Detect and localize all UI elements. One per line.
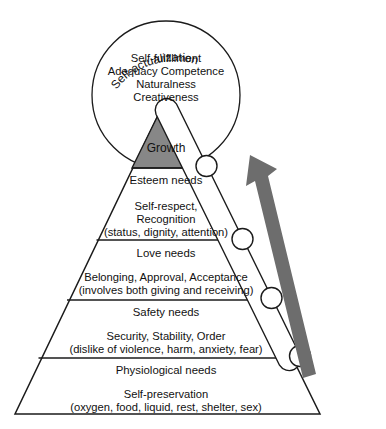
level-detail-safety-2: (dislike of violence, harm, anxiety, fea… bbox=[69, 343, 262, 355]
node-circle-esteem-love bbox=[232, 229, 253, 250]
diagram-canvas: Self-actualization Self-fulfillment Adeq… bbox=[0, 0, 386, 429]
circle-line-3: Naturalness bbox=[136, 78, 196, 90]
circle-line-4: Creativeness bbox=[133, 91, 199, 103]
maslow-hierarchy-diagram: Self-actualization Self-fulfillment Adeq… bbox=[0, 0, 386, 429]
circle-line-2: Adequacy Competence bbox=[108, 65, 224, 77]
level-detail-physiological-2: (oxygen, food, liquid, rest, shelter, se… bbox=[70, 401, 262, 413]
level-title-safety: Safety needs bbox=[133, 306, 200, 318]
level-detail-esteem-2: Recognition bbox=[136, 213, 195, 225]
level-title-love: Love needs bbox=[137, 247, 196, 259]
node-circle-love-safety bbox=[261, 288, 282, 309]
level-detail-love-1: Belonging, Approval, Acceptance bbox=[84, 271, 248, 283]
level-title-physiological: Physiological needs bbox=[116, 364, 217, 376]
level-detail-physiological-1: Self-preservation bbox=[124, 388, 209, 400]
circle-line-1: Self-fulfillment bbox=[131, 52, 202, 64]
growth-label: Growth bbox=[147, 141, 186, 155]
level-detail-esteem-1: Self-respect, bbox=[135, 200, 198, 212]
level-detail-love-2: (involves both giving and receiving) bbox=[79, 284, 254, 296]
level-detail-esteem-3: (status, dignity, attention) bbox=[104, 226, 228, 238]
level-title-esteem: Esteem needs bbox=[130, 174, 203, 186]
level-detail-safety-1: Security, Stability, Order bbox=[107, 330, 226, 342]
